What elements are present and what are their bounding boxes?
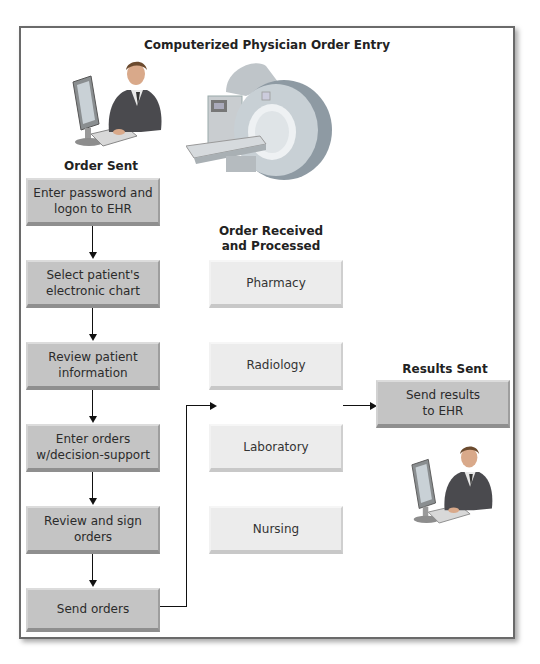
connector-line	[92, 390, 93, 416]
physician-computer-icon	[401, 438, 501, 528]
diagram-title: Computerized Physician Order Entry	[21, 38, 513, 52]
connector-line	[92, 472, 93, 498]
arrow-down-icon	[89, 252, 97, 259]
diagram-frame: Computerized Physician Order Entry	[19, 26, 515, 639]
step-enter-password: Enter password and logon to EHR	[26, 178, 160, 226]
step-send-results: Send results to EHR	[376, 380, 510, 428]
connector-line	[92, 308, 93, 334]
mri-scanner-icon	[186, 52, 346, 182]
connector-line	[343, 405, 370, 406]
connector-line	[92, 554, 93, 580]
department-nursing: Nursing	[209, 506, 343, 554]
order-received-heading: Order Received and Processed	[206, 224, 336, 254]
physician-computer-icon	[61, 54, 171, 150]
department-laboratory: Laboratory	[209, 424, 343, 472]
arrow-down-icon	[89, 416, 97, 423]
step-enter-orders: Enter orders w/decision-support	[26, 424, 160, 472]
arrow-down-icon	[89, 580, 97, 587]
connector-line	[92, 226, 93, 252]
order-sent-heading: Order Sent	[41, 159, 161, 174]
step-select-chart: Select patient's electronic chart	[26, 260, 160, 308]
arrow-down-icon	[89, 498, 97, 505]
step-review-info: Review patient information	[26, 342, 160, 390]
connector-line	[186, 405, 210, 406]
connector-line	[186, 405, 187, 607]
department-radiology: Radiology	[209, 342, 343, 390]
step-review-sign: Review and sign orders	[26, 506, 160, 554]
step-send-orders: Send orders	[26, 588, 160, 632]
department-pharmacy: Pharmacy	[209, 260, 343, 308]
arrow-down-icon	[89, 334, 97, 341]
arrow-right-icon	[210, 402, 217, 410]
results-sent-heading: Results Sent	[377, 362, 513, 377]
connector-line	[160, 606, 187, 607]
